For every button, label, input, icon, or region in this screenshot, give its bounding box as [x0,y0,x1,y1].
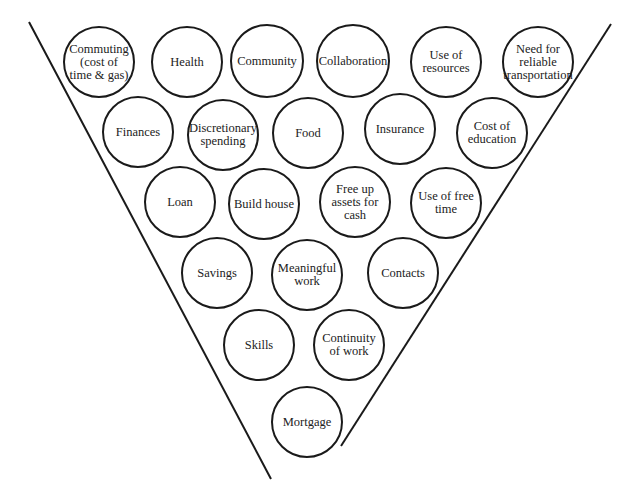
node-label: Meaningful work [276,262,338,288]
node-label: Cost of education [466,120,519,146]
node-collaboration: Collaboration [316,24,390,98]
node-label: Use of resources [420,49,471,75]
node-label: Collaboration [317,55,390,68]
node-free-up-assets-for-cash: Free up assets for cash [319,166,391,238]
funnel-diagram: Commuting (cost of time & gas) Health Co… [0,0,640,489]
node-label: Mortgage [281,416,334,429]
node-finances: Finances [102,96,174,168]
node-food: Food [272,97,344,169]
node-mortgage: Mortgage [271,386,343,458]
node-label: Insurance [374,123,427,136]
node-label: Use of free time [416,190,476,216]
node-continuity-of-work: Continuity of work [313,309,385,381]
node-label: Continuity of work [320,332,377,358]
node-need-for-reliable-transportation: Need for reliable transportation [502,26,574,98]
node-label: Contacts [379,267,427,280]
node-label: Community [235,55,299,68]
node-skills: Skills [223,309,295,381]
node-health: Health [151,26,223,98]
node-community: Community [230,24,304,98]
node-discretionary-spending: Discretionary spending [187,99,259,171]
node-savings: Savings [181,237,253,309]
node-contacts: Contacts [367,237,439,309]
node-use-of-resources: Use of resources [410,26,482,98]
node-label: Commuting (cost of time & gas) [67,43,131,82]
node-loan: Loan [144,166,216,238]
node-use-of-free-time: Use of free time [410,167,482,239]
node-commuting: Commuting (cost of time & gas) [63,26,135,98]
node-insurance: Insurance [364,93,436,165]
node-label: Discretionary spending [187,122,259,148]
node-cost-of-education: Cost of education [456,97,528,169]
node-label: Need for reliable transportation [501,43,574,82]
node-label: Loan [165,196,195,209]
node-label: Health [168,56,205,69]
node-label: Skills [243,339,276,352]
node-label: Finances [114,126,162,139]
node-label: Build house [232,198,296,211]
node-label: Food [293,127,323,140]
funnel-right-edge [341,24,611,446]
node-build-house: Build house [228,168,300,240]
node-label: Savings [195,267,239,280]
node-meaningful-work: Meaningful work [271,239,343,311]
node-label: Free up assets for cash [330,183,381,222]
